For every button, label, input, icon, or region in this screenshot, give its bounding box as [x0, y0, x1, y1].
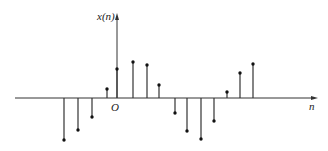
stem-marker	[173, 111, 176, 114]
stem-marker	[62, 138, 65, 141]
stem-marker	[145, 63, 148, 66]
stem	[238, 71, 241, 98]
stem	[90, 98, 93, 119]
origin-label: O	[111, 102, 119, 113]
stem	[225, 90, 228, 98]
stem-marker	[105, 87, 108, 90]
stem-marker	[212, 119, 215, 122]
stem-marker	[131, 60, 134, 63]
stem	[105, 87, 108, 98]
stem-marker	[185, 129, 188, 132]
stem	[115, 67, 118, 98]
stem	[212, 98, 215, 123]
y-axis-label: x(n)	[97, 11, 115, 22]
stem	[173, 98, 176, 115]
stem-marker	[251, 62, 254, 65]
stem-marker	[199, 137, 202, 140]
y-axis-arrow-icon	[115, 13, 119, 20]
stem-plot	[0, 0, 328, 151]
stem	[145, 63, 148, 98]
stem	[251, 62, 254, 98]
stems	[62, 60, 254, 141]
stem-marker	[238, 71, 241, 74]
stem	[62, 98, 65, 142]
axes	[15, 13, 318, 100]
stem	[131, 60, 134, 98]
stem-marker	[115, 67, 118, 70]
stem-marker	[157, 83, 160, 86]
stem-marker	[76, 128, 79, 131]
stem	[76, 98, 79, 132]
stem-marker	[90, 115, 93, 118]
stem	[185, 98, 188, 133]
x-axis-label: n	[309, 101, 315, 112]
stem	[199, 98, 202, 141]
stem-marker	[225, 90, 228, 93]
stem	[157, 83, 160, 98]
